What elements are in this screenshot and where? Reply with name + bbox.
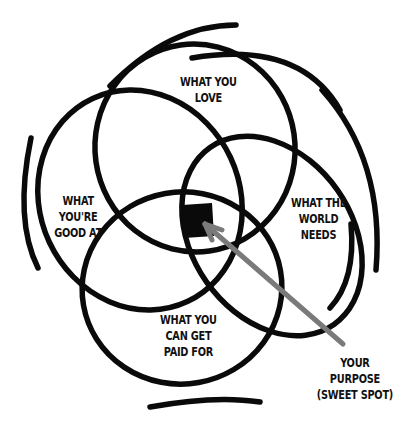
label-line: PAID FOR — [160, 344, 217, 360]
label-line: WHAT YOU — [160, 312, 217, 328]
label-line: (SWEET SPOT) — [317, 387, 393, 403]
label-line: WHAT YOU — [180, 74, 237, 90]
label-line: GOOD AT — [54, 225, 102, 241]
label-line: PURPOSE — [317, 371, 393, 387]
label-your-purpose: YOUR PURPOSE (SWEET SPOT) — [317, 355, 393, 403]
label-line: NEEDS — [291, 227, 346, 243]
label-line: YOUR — [317, 355, 393, 371]
label-what-you-love: WHAT YOU LOVE — [180, 74, 237, 106]
label-what-you-can-get-paid-for: WHAT YOU CAN GET PAID FOR — [160, 312, 217, 360]
label-line: LOVE — [180, 90, 237, 106]
outer-arc-bottom — [150, 399, 260, 407]
label-line: CAN GET — [160, 328, 217, 344]
label-line: YOU'RE — [54, 209, 102, 225]
label-what-the-world-needs: WHAT THE WORLD NEEDS — [291, 195, 346, 243]
label-line: WHAT THE — [291, 195, 346, 211]
label-line: WHAT — [54, 193, 102, 209]
label-what-youre-good-at: WHAT YOU'RE GOOD AT — [54, 193, 102, 241]
label-line: WORLD — [291, 211, 346, 227]
